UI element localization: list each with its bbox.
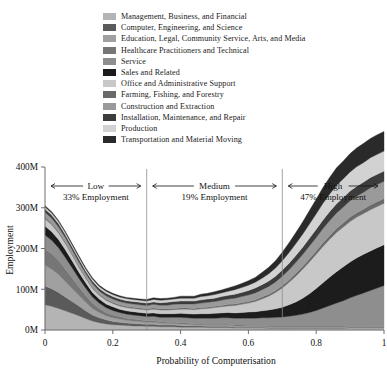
region-employment-share-low: 33% Employment [63, 192, 129, 202]
y-tick-label: 400M [16, 162, 38, 172]
stacked-area-chart: 0M100M200M300M400M00.20.40.60.81 Low33% … [0, 0, 387, 371]
y-tick-label: 0M [25, 325, 38, 335]
region-label-low: Low [88, 181, 105, 191]
x-tick-label: 0.2 [107, 338, 119, 348]
x-tick-label: 0.8 [310, 338, 322, 348]
y-axis-title: Employment [4, 225, 15, 275]
area-series-group [45, 132, 384, 330]
x-tick-label: 0.4 [175, 338, 187, 348]
region-annotations: Low33% EmploymentMedium19% EmploymentHig… [51, 181, 378, 202]
region-employment-share-medium: 19% Employment [182, 192, 248, 202]
region-label-high: High [324, 181, 343, 191]
region-label-medium: Medium [199, 181, 230, 191]
x-tick-label: 1 [382, 338, 387, 348]
x-axis-title: Probability of Computerisation [156, 355, 276, 366]
plot-area: 0M100M200M300M400M00.20.40.60.81 Low33% … [0, 0, 387, 371]
region-employment-share-high: 47% Employment [300, 192, 366, 202]
chart-figure: Management, Business, and FinancialCompu… [0, 0, 387, 371]
y-tick-label: 300M [16, 203, 38, 213]
x-tick-label: 0.6 [243, 338, 255, 348]
y-tick-label: 200M [16, 244, 38, 254]
x-tick-label: 0 [43, 338, 48, 348]
y-tick-label: 100M [16, 285, 38, 295]
